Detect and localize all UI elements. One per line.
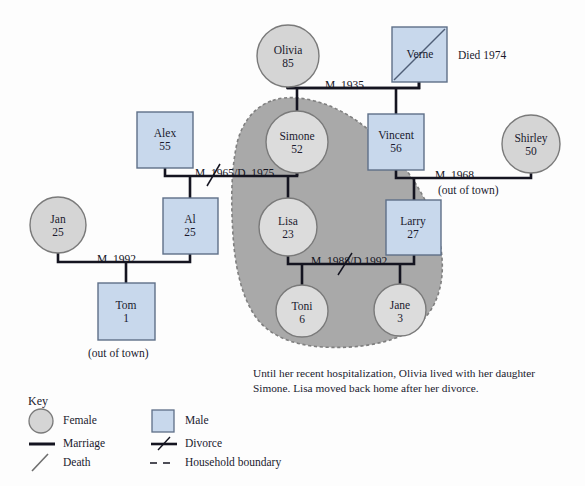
key-label-male: Male (185, 414, 209, 426)
person-jan-shape[interactable] (30, 197, 86, 253)
person-al-shape[interactable] (163, 198, 218, 254)
key-label-death: Death (63, 456, 90, 468)
diagram-caption: Until her recent hospitalization, Olivia… (253, 366, 583, 396)
marriage-label-alex-simone: M. 1965/D. 1975 (195, 167, 274, 179)
person-jane-shape[interactable] (374, 284, 426, 336)
marriage-label-vincent-shirley: M. 1968 (435, 169, 474, 181)
key-label-marriage: Marriage (63, 437, 105, 449)
marriage-label-lisa-larry: M. 1988/D.1992 (311, 255, 387, 267)
key-label-household: Household boundary (185, 456, 281, 468)
person-tom-shape[interactable] (98, 283, 155, 340)
person-toni-shape[interactable] (276, 285, 328, 337)
marriage-label-jan-al: M. 1992 (97, 253, 136, 265)
genogram-diagram: Olivia 85 Verne Alex 55 Simone 52 Vincen… (0, 0, 585, 486)
marriage-label-olivia-verne: M. 1935 (325, 79, 364, 91)
key-female-circle-icon (29, 409, 53, 433)
annotation-vincent-shirley-out-of-town: (out of town) (438, 183, 499, 197)
person-larry-shape[interactable] (386, 200, 441, 255)
caption-line-2: Simone. Lisa moved back home after her d… (253, 381, 583, 396)
person-vincent-shape[interactable] (368, 114, 424, 170)
person-olivia-shape[interactable] (257, 25, 319, 87)
key-male-square-icon (152, 410, 174, 432)
annotation-tom-out-of-town: (out of town) (88, 346, 149, 360)
caption-line-1: Until her recent hospitalization, Olivia… (253, 366, 583, 381)
person-simone-shape[interactable] (266, 111, 328, 173)
person-lisa-shape[interactable] (259, 198, 317, 256)
person-shirley-shape[interactable] (502, 115, 560, 173)
key-label-divorce: Divorce (185, 437, 222, 449)
key-title: Key (28, 394, 48, 409)
key-death-diagonal-slash-icon (32, 454, 48, 471)
annotation-verne-death: Died 1974 (458, 48, 506, 62)
key-label-female: Female (63, 414, 97, 426)
person-alex-shape[interactable] (137, 112, 193, 168)
